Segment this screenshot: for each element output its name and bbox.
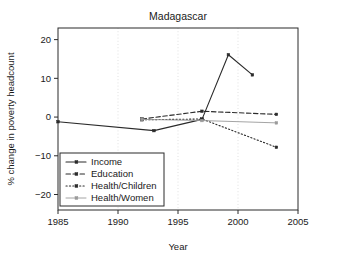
- x-tick-label: 2005: [287, 216, 308, 227]
- y-tick-label: −10: [35, 150, 51, 161]
- y-tick-label: 10: [40, 73, 51, 84]
- x-tick-label: 1990: [107, 216, 128, 227]
- chart-legend: IncomeEducationHealth/ChildrenHealth/Wom…: [60, 153, 164, 206]
- chart-title: Madagascar: [149, 10, 207, 22]
- series-line: [142, 111, 276, 119]
- series-line: [142, 119, 276, 147]
- legend-marker-sample: [75, 173, 78, 176]
- x-tick-label: 2000: [227, 216, 248, 227]
- poverty-headcount-line-chart: Madagascar 20100−10−20 19851990199520002…: [0, 0, 343, 257]
- series-health-women: [141, 118, 278, 124]
- legend-label: Education: [91, 168, 133, 179]
- data-point-marker: [275, 113, 278, 116]
- legend-label: Income: [91, 156, 122, 167]
- legend-marker-sample: [75, 161, 78, 164]
- data-point-marker: [141, 118, 144, 121]
- x-tick-label: 1995: [167, 216, 188, 227]
- series-line: [142, 119, 276, 122]
- y-tick-label: 0: [46, 111, 51, 122]
- legend-label: Health/Children: [91, 180, 156, 191]
- y-tick-label: −20: [35, 189, 51, 200]
- series-education: [141, 110, 278, 120]
- data-point-marker: [201, 110, 204, 113]
- chart-figure: Madagascar 20100−10−20 19851990199520002…: [0, 0, 343, 257]
- data-point-marker: [57, 120, 60, 123]
- y-axis-ticks: 20100−10−20: [35, 34, 58, 200]
- data-series-group: [57, 53, 278, 148]
- data-point-marker: [201, 119, 204, 122]
- data-point-marker: [153, 129, 156, 132]
- legend-marker-sample: [75, 185, 78, 188]
- x-tick-label: 1985: [47, 216, 68, 227]
- data-point-marker: [251, 74, 254, 77]
- legend-marker-sample: [75, 197, 78, 200]
- data-point-marker: [275, 146, 278, 149]
- x-axis-ticks: 19851990199520002005: [47, 210, 308, 227]
- data-point-marker: [275, 122, 278, 125]
- x-axis-label: Year: [168, 241, 187, 252]
- y-axis-label: % change in poverty headcount: [5, 52, 16, 185]
- legend-label: Health/Women: [91, 192, 154, 203]
- series-income: [57, 53, 254, 131]
- y-tick-label: 20: [40, 34, 51, 45]
- data-point-marker: [227, 53, 230, 56]
